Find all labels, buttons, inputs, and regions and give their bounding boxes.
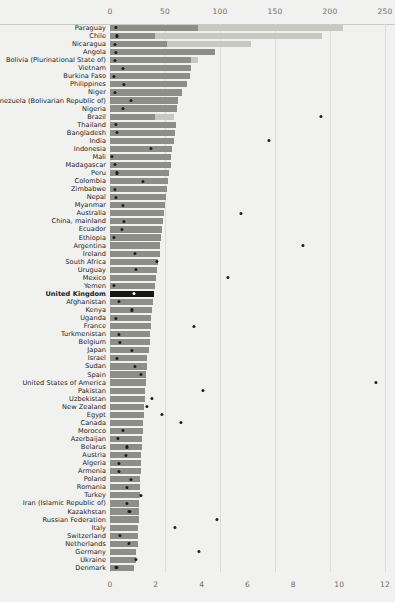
bar-row[interactable] bbox=[110, 467, 385, 475]
bar-row[interactable] bbox=[110, 234, 385, 242]
bar-row[interactable] bbox=[110, 56, 385, 64]
bar-row[interactable] bbox=[110, 40, 385, 48]
bar-row[interactable] bbox=[110, 427, 385, 435]
bar-row[interactable] bbox=[110, 290, 385, 298]
bar-row[interactable] bbox=[110, 282, 385, 290]
bar-row[interactable] bbox=[110, 145, 385, 153]
bar-row[interactable] bbox=[110, 371, 385, 379]
category-label: Belarus bbox=[81, 443, 106, 451]
category-label: Yemen bbox=[84, 282, 106, 290]
top-tick-250: 250 bbox=[378, 7, 393, 16]
bar-row[interactable] bbox=[110, 225, 385, 233]
bar-row[interactable] bbox=[110, 113, 385, 121]
bar-row[interactable] bbox=[110, 314, 385, 322]
bar-row[interactable] bbox=[110, 250, 385, 258]
bar-row[interactable] bbox=[110, 169, 385, 177]
bar-dark-segment bbox=[110, 202, 165, 208]
bar-dark-segment bbox=[110, 565, 134, 571]
bar-row[interactable] bbox=[110, 242, 385, 250]
bar-row[interactable] bbox=[110, 564, 385, 572]
bar-row[interactable] bbox=[110, 32, 385, 40]
top-tick-200: 200 bbox=[323, 7, 338, 16]
bar-row[interactable] bbox=[110, 177, 385, 185]
bar-row[interactable] bbox=[110, 185, 385, 193]
bar-dark-segment bbox=[110, 323, 151, 329]
bar-row[interactable] bbox=[110, 362, 385, 370]
bar-row[interactable] bbox=[110, 499, 385, 507]
bar-row[interactable] bbox=[110, 532, 385, 540]
bar-row[interactable] bbox=[110, 548, 385, 556]
bar-row[interactable] bbox=[110, 411, 385, 419]
bar-row[interactable] bbox=[110, 403, 385, 411]
bottom-axis-tick-labels: 024681012 bbox=[0, 580, 395, 594]
bar-dark-segment bbox=[110, 89, 182, 95]
bar-row[interactable] bbox=[110, 161, 385, 169]
bar-dark-segment bbox=[110, 122, 176, 128]
bar-row[interactable] bbox=[110, 459, 385, 467]
category-label: Burkina Faso bbox=[63, 72, 106, 80]
bar-dark-segment bbox=[110, 170, 169, 176]
bar-row[interactable] bbox=[110, 346, 385, 354]
bar-row[interactable] bbox=[110, 306, 385, 314]
bar-row[interactable] bbox=[110, 72, 385, 80]
bar-row[interactable] bbox=[110, 419, 385, 427]
bar-row[interactable] bbox=[110, 451, 385, 459]
bar-row[interactable] bbox=[110, 338, 385, 346]
bar-dark-segment bbox=[110, 468, 141, 474]
bar-row[interactable] bbox=[110, 137, 385, 145]
bar-row[interactable] bbox=[110, 88, 385, 96]
category-label: Turkmenistan bbox=[61, 330, 106, 338]
bar-row[interactable] bbox=[110, 121, 385, 129]
category-label: Pakistan bbox=[78, 387, 106, 395]
bar-row[interactable] bbox=[110, 266, 385, 274]
bar-row[interactable] bbox=[110, 387, 385, 395]
category-label: Iran (Islamic Republic of) bbox=[23, 499, 106, 507]
bar-dark-segment bbox=[110, 49, 215, 55]
bar-row[interactable] bbox=[110, 105, 385, 113]
bar-row[interactable] bbox=[110, 379, 385, 387]
bar-row[interactable] bbox=[110, 540, 385, 548]
bar-row[interactable] bbox=[110, 443, 385, 451]
bar-row[interactable] bbox=[110, 330, 385, 338]
category-label: Angola bbox=[83, 48, 106, 56]
bar-row[interactable] bbox=[110, 258, 385, 266]
bar-row[interactable] bbox=[110, 80, 385, 88]
bar-row[interactable] bbox=[110, 201, 385, 209]
bar-row[interactable] bbox=[110, 298, 385, 306]
category-label: Japan bbox=[87, 346, 106, 354]
bar-row[interactable] bbox=[110, 556, 385, 564]
dot-marker bbox=[135, 558, 138, 561]
bar-dark-segment bbox=[110, 363, 147, 369]
dot-marker bbox=[198, 550, 201, 553]
category-label: Uzbekistan bbox=[69, 395, 106, 403]
bar-dark-segment bbox=[110, 525, 138, 531]
bar-row[interactable] bbox=[110, 193, 385, 201]
bar-row[interactable] bbox=[110, 274, 385, 282]
bar-row[interactable] bbox=[110, 209, 385, 217]
bar-row[interactable] bbox=[110, 129, 385, 137]
category-label: Egypt bbox=[87, 411, 106, 419]
bar-row[interactable] bbox=[110, 483, 385, 491]
bar-row[interactable] bbox=[110, 64, 385, 72]
bar-dark-segment bbox=[110, 549, 136, 555]
bar-row[interactable] bbox=[110, 322, 385, 330]
category-label: Ethiopia bbox=[79, 234, 106, 242]
bar-row[interactable] bbox=[110, 475, 385, 483]
bar-dark-segment bbox=[110, 508, 139, 514]
bar-row[interactable] bbox=[110, 153, 385, 161]
bar-row[interactable] bbox=[110, 217, 385, 225]
category-label: Italy bbox=[91, 524, 106, 532]
bar-row[interactable] bbox=[110, 24, 385, 32]
category-label: Nepal bbox=[87, 193, 106, 201]
bar-row[interactable] bbox=[110, 491, 385, 499]
bar-row[interactable] bbox=[110, 508, 385, 516]
bar-row[interactable] bbox=[110, 395, 385, 403]
bar-row[interactable] bbox=[110, 435, 385, 443]
bar-row[interactable] bbox=[110, 48, 385, 56]
bar-row[interactable] bbox=[110, 524, 385, 532]
category-label: Romania bbox=[77, 483, 106, 491]
bar-row[interactable] bbox=[110, 97, 385, 105]
bottom-tick-4: 4 bbox=[199, 580, 204, 589]
bar-row[interactable] bbox=[110, 516, 385, 524]
bar-row[interactable] bbox=[110, 354, 385, 362]
